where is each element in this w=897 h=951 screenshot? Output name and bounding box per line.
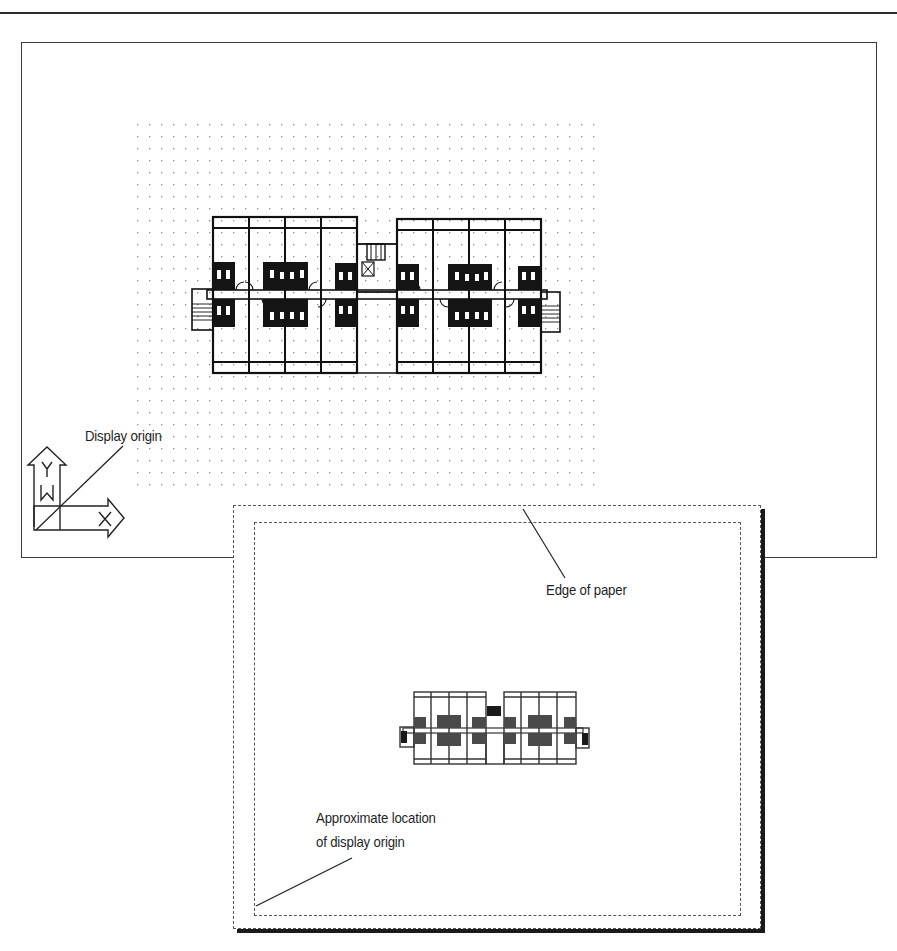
- edge-of-paper-label: Edge of paper: [546, 582, 627, 597]
- paper-layer: [0, 0, 897, 951]
- service-blocks-preview: [401, 706, 588, 746]
- approximate-origin-label: Approximate location of display origin: [316, 806, 436, 854]
- approximate-origin-label-line2: of display origin: [316, 830, 436, 854]
- display-origin-label: Display origin: [85, 428, 162, 443]
- building-plan-preview: [400, 692, 589, 764]
- approx-origin-leader: [256, 858, 352, 906]
- approximate-origin-label-line1: Approximate location: [316, 806, 436, 830]
